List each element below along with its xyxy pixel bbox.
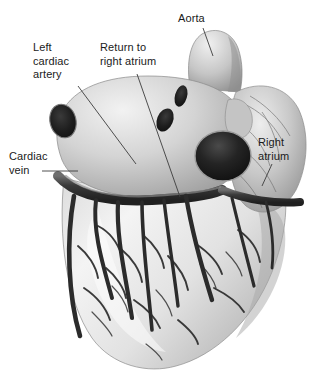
label-aorta: Aorta [178, 12, 205, 26]
label-left-cardiac-artery: Left cardiac artery [33, 41, 69, 82]
label-cardiac-vein: Cardiac vein [9, 150, 48, 177]
label-right-atrium: Right atrium [258, 136, 289, 163]
vena-cava-opening [195, 131, 251, 181]
label-return-to-right-atrium: Return to right atrium [100, 41, 156, 68]
